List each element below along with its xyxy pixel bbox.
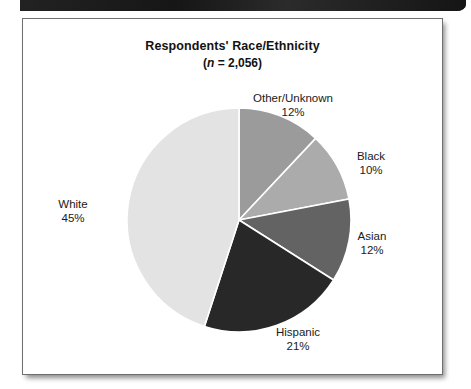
pie-label-other-unknown-value: 12% xyxy=(241,105,345,119)
pie-label-white-name: White xyxy=(58,198,87,210)
pie-label-asian: Asian 12% xyxy=(343,229,401,258)
pie-label-white-value: 45% xyxy=(41,211,105,225)
pie-label-asian-value: 12% xyxy=(343,243,401,257)
chart-subtitle: (n = 2,056) xyxy=(23,56,442,70)
pie-label-black-value: 10% xyxy=(343,163,399,177)
figure-inner: Respondents' Race/Ethnicity (n = 2,056) … xyxy=(23,19,442,374)
figure-panel: Respondents' Race/Ethnicity (n = 2,056) … xyxy=(22,18,443,375)
pie-slice-group xyxy=(127,108,351,332)
pie-label-white: White 45% xyxy=(41,197,105,226)
pie-label-hispanic-value: 21% xyxy=(261,339,335,353)
pie-label-asian-name: Asian xyxy=(358,230,387,242)
pie-label-black: Black 10% xyxy=(343,149,399,178)
pie-chart xyxy=(115,96,363,344)
pie-label-other-unknown-name: Other/Unknown xyxy=(253,92,333,104)
pie-label-black-name: Black xyxy=(357,150,385,162)
chart-subtitle-count: = 2,056) xyxy=(214,56,262,70)
scan-edge-bar xyxy=(20,0,466,11)
chart-title: Respondents' Race/Ethnicity xyxy=(23,39,442,53)
pie-label-hispanic: Hispanic 21% xyxy=(261,325,335,354)
pie-chart-svg xyxy=(115,96,363,344)
pie-label-other-unknown: Other/Unknown 12% xyxy=(241,91,345,120)
pie-label-hispanic-name: Hispanic xyxy=(276,326,320,338)
